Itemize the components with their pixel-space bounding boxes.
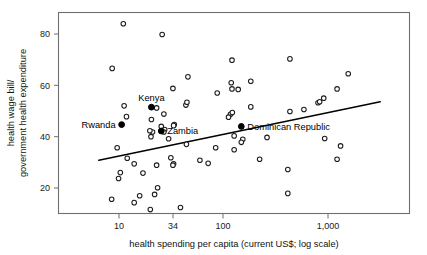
data-point bbox=[109, 197, 114, 202]
point-label-zambia: Zambia bbox=[167, 126, 199, 136]
data-point bbox=[286, 167, 291, 172]
data-point bbox=[162, 112, 167, 117]
data-point bbox=[118, 170, 123, 175]
data-point bbox=[230, 87, 235, 92]
data-point bbox=[198, 158, 203, 163]
data-point bbox=[206, 161, 211, 166]
x-axis-title: health spending per capita (current US$;… bbox=[129, 239, 338, 249]
data-point bbox=[226, 115, 231, 120]
data-point bbox=[148, 207, 153, 212]
data-point bbox=[286, 191, 291, 196]
highlighted-point-kenya bbox=[149, 104, 155, 110]
data-point bbox=[338, 144, 343, 149]
x-axis-ticks: 10 34 100 1,000 bbox=[114, 214, 339, 232]
data-point bbox=[110, 66, 115, 71]
highlighted-point-rwanda bbox=[119, 122, 125, 128]
x-tick-label-34: 34 bbox=[168, 221, 178, 231]
data-point bbox=[288, 109, 293, 114]
data-point bbox=[230, 58, 235, 63]
data-point bbox=[215, 91, 220, 96]
data-point bbox=[171, 86, 176, 91]
chart-canvas: 80 60 40 20 10 34 100 1,000 health spend… bbox=[0, 0, 427, 255]
data-point bbox=[257, 157, 262, 162]
highlighted-point-zambia bbox=[158, 128, 164, 134]
data-point bbox=[184, 142, 189, 147]
data-point bbox=[122, 104, 127, 109]
data-point bbox=[317, 99, 322, 104]
data-point bbox=[132, 162, 137, 167]
x-tick-label-10: 10 bbox=[114, 221, 124, 231]
data-point bbox=[229, 80, 234, 85]
highlighted-point-dominican-republic bbox=[238, 124, 244, 130]
data-point bbox=[169, 155, 174, 160]
data-point bbox=[248, 79, 253, 84]
data-point bbox=[248, 105, 253, 110]
data-point bbox=[322, 136, 327, 141]
data-point bbox=[230, 110, 235, 115]
data-point bbox=[171, 163, 176, 168]
point-label-dominican-republic: Dominican Republic bbox=[247, 122, 330, 132]
highlighted-points-group: KenyaRwandaZambiaDominican Republic bbox=[82, 93, 331, 136]
y-axis-ticks: 80 60 40 20 bbox=[40, 29, 59, 193]
data-point bbox=[115, 145, 120, 150]
data-point bbox=[125, 156, 130, 161]
data-point bbox=[137, 193, 142, 198]
data-point bbox=[186, 75, 191, 80]
data-point bbox=[178, 205, 183, 210]
point-label-kenya: Kenya bbox=[138, 93, 165, 103]
point-label-rwanda: Rwanda bbox=[82, 120, 117, 130]
scatter-plot-figure: 80 60 40 20 10 34 100 1,000 health spend… bbox=[0, 0, 427, 255]
data-point bbox=[154, 163, 159, 168]
data-point bbox=[321, 96, 326, 101]
data-point bbox=[152, 192, 157, 197]
data-point bbox=[149, 117, 154, 122]
data-point bbox=[166, 136, 171, 141]
data-point bbox=[185, 100, 190, 105]
y-axis-title-line1: health wage bill/ bbox=[6, 79, 16, 146]
data-point bbox=[236, 87, 241, 92]
data-point bbox=[132, 200, 137, 205]
data-point bbox=[121, 21, 126, 26]
data-point bbox=[265, 135, 270, 140]
y-tick-label-60: 60 bbox=[40, 81, 50, 91]
y-tick-label-40: 40 bbox=[40, 132, 50, 142]
data-point bbox=[335, 87, 340, 92]
trendline bbox=[99, 102, 380, 161]
data-point bbox=[141, 171, 146, 176]
x-tick-label-1000: 1,000 bbox=[317, 221, 340, 231]
data-point bbox=[149, 134, 154, 139]
trendline-path bbox=[99, 102, 380, 161]
data-point bbox=[232, 147, 237, 152]
data-point bbox=[155, 185, 160, 190]
data-point bbox=[154, 106, 159, 111]
data-point bbox=[124, 114, 129, 119]
data-point bbox=[116, 176, 121, 181]
data-point bbox=[302, 107, 307, 112]
data-point bbox=[335, 157, 340, 162]
data-point bbox=[288, 57, 293, 62]
data-point bbox=[232, 134, 237, 139]
data-point bbox=[239, 140, 244, 145]
data-points-group bbox=[109, 21, 350, 211]
y-tick-label-20: 20 bbox=[40, 183, 50, 193]
y-tick-label-80: 80 bbox=[40, 29, 50, 39]
data-point bbox=[160, 32, 165, 37]
x-tick-label-100: 100 bbox=[215, 221, 230, 231]
y-axis-title-line2: government health expenditure bbox=[18, 49, 28, 177]
data-point bbox=[148, 128, 153, 133]
data-point bbox=[213, 145, 218, 150]
data-point bbox=[346, 71, 351, 76]
